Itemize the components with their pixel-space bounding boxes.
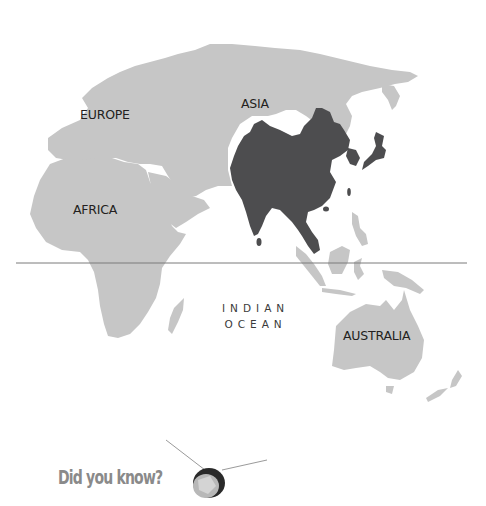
sulawesi: [354, 258, 364, 280]
label-asia: ASIA: [241, 96, 269, 111]
kamchatka: [382, 84, 400, 110]
satellite-antenna-left: [166, 440, 205, 470]
taiwan: [347, 188, 351, 196]
label-indian-ocean: INDIAN OCEAN: [222, 300, 289, 332]
ocean-label-line1: INDIAN: [222, 300, 289, 316]
label-africa: AFRICA: [73, 202, 117, 217]
sumatra: [296, 246, 326, 286]
tasmania: [386, 386, 394, 394]
highlighted-asia-region: [230, 108, 350, 254]
satellite-antenna-right: [222, 460, 267, 470]
borneo: [328, 246, 350, 274]
ocean-label-line2: OCEAN: [222, 316, 289, 332]
label-europe: EUROPE: [80, 107, 130, 122]
java: [322, 288, 356, 296]
hainan: [323, 207, 329, 212]
philippines: [352, 212, 368, 246]
label-australia: AUSTRALIA: [343, 328, 410, 343]
satellite-icon: [193, 468, 225, 498]
did-you-know-callout: Did you know?: [58, 466, 162, 488]
new-guinea: [382, 270, 424, 294]
world-map: [0, 0, 486, 506]
sri-lanka: [257, 238, 262, 246]
japan: [362, 132, 386, 170]
new-zealand: [426, 370, 462, 402]
madagascar: [168, 298, 184, 334]
korea: [346, 148, 360, 166]
